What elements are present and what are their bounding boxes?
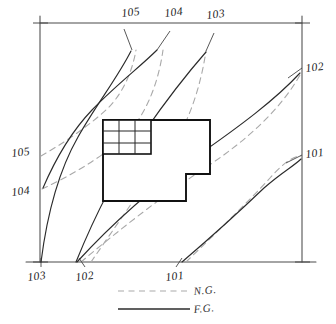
contour-label-left-104: 104 [11,184,31,198]
leader-top-103 [206,33,214,51]
leader-right-101 [286,155,302,163]
contour-label-right-102: 102 [305,60,325,74]
contour-label-right-101: 101 [305,146,325,160]
contour-label-left-105: 105 [11,145,31,159]
contour-label-bottom-103: 103 [27,269,47,283]
contour-label-bottom-101: 101 [165,269,185,283]
leader-top-105 [124,29,132,50]
contour-label-bottom-102: 102 [75,269,95,283]
legend: N.G. F.G. [118,283,217,315]
leader-top-104 [157,31,170,50]
grid-overlay [103,120,151,154]
legend-label-fg: F.G. [192,301,215,315]
legend-label-ng: N.G. [192,283,217,297]
building-footprint [100,117,215,205]
contour-label-top-104: 104 [164,5,184,19]
plan-canvas: 105 104 103 105 104 102 101 103 102 101 … [0,0,336,324]
contour-label-top-105: 105 [121,5,141,19]
grid-overlay-box [103,120,151,154]
contour-label-top-103: 103 [206,7,226,21]
grading-plan-drawing: 105 104 103 105 104 102 101 103 102 101 … [0,0,336,324]
